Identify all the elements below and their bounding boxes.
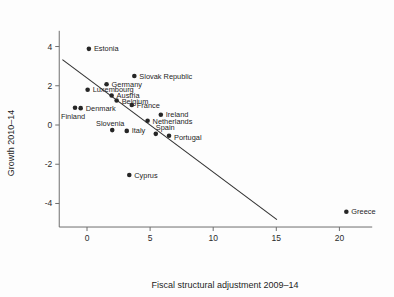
x-tick-label: 0 <box>85 233 90 243</box>
y-tick-label: 4 <box>48 42 53 52</box>
data-point <box>344 209 349 214</box>
x-tick-label: 15 <box>272 233 282 243</box>
data-point-label: Greece <box>351 207 375 216</box>
y-tick-label: 2 <box>48 81 53 91</box>
data-point-label: Portugal <box>174 133 202 142</box>
data-point-label: Estonia <box>94 44 120 53</box>
data-point <box>109 93 114 98</box>
y-tick-label: -4 <box>45 198 53 208</box>
x-tick-label: 20 <box>335 233 345 243</box>
y-axis-title: Growth 2010–14 <box>6 110 16 177</box>
x-tick-label: 10 <box>208 233 218 243</box>
data-point <box>78 106 83 111</box>
data-point <box>124 129 129 134</box>
data-point-label: Italy <box>132 126 146 135</box>
data-point-label: Slovak Republic <box>139 72 192 81</box>
scatter-plot: 05101520 420-2-4 EstoniaSlovak RepublicG… <box>0 0 394 297</box>
data-point-label: Denmark <box>86 104 116 113</box>
trend-line <box>62 60 277 220</box>
data-point <box>85 87 90 92</box>
data-point <box>73 105 78 110</box>
data-point <box>110 128 115 133</box>
data-point <box>114 98 119 103</box>
data-point <box>127 173 132 178</box>
data-point <box>153 132 158 137</box>
x-axis-title: Fiscal structural adjustment 2009–14 <box>151 280 298 290</box>
y-tick-label: -2 <box>45 159 53 169</box>
plot-frame <box>59 31 372 227</box>
data-point-label: Cyprus <box>134 171 158 180</box>
chart-figure: 05101520 420-2-4 EstoniaSlovak RepublicG… <box>0 0 394 297</box>
data-point <box>130 103 135 108</box>
data-point-label: France <box>137 101 160 110</box>
data-point-label: Slovenia <box>96 119 125 128</box>
data-point-label: Spain <box>156 123 175 132</box>
x-tick-label: 5 <box>148 233 153 243</box>
data-point <box>145 118 150 123</box>
data-point <box>167 133 172 138</box>
data-point <box>132 74 137 79</box>
data-point <box>87 47 92 52</box>
data-point-label: Finland <box>61 112 85 121</box>
y-tick-label: 0 <box>48 120 53 130</box>
y-axis-ticks: 420-2-4 <box>45 42 60 209</box>
x-axis-ticks: 05101520 <box>85 227 345 243</box>
regression-line <box>62 60 277 220</box>
data-points: EstoniaSlovak RepublicGermanyLuxembourgA… <box>61 44 376 216</box>
